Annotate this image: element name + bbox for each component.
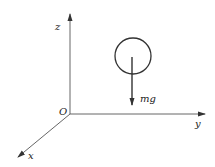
ball-body [115, 38, 151, 74]
force-label: mg [140, 93, 156, 104]
x-axis [18, 114, 70, 157]
y-axis-label: y [194, 118, 201, 129]
coordinate-diagram: z O y x mg [0, 0, 215, 167]
z-axis-label: z [54, 21, 61, 32]
origin-label: O [59, 106, 67, 117]
x-axis-label: x [28, 150, 34, 161]
